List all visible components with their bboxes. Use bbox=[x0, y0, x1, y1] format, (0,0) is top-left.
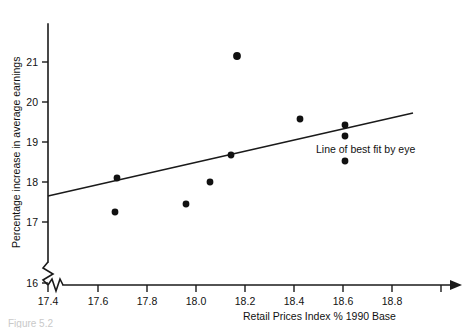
y-tick-label-19: 19 bbox=[26, 136, 38, 148]
data-point[interactable] bbox=[297, 116, 304, 123]
data-point[interactable] bbox=[112, 209, 119, 216]
figure-caption: Figure 5.2 bbox=[8, 318, 53, 328]
y-axis-break-icon bbox=[43, 262, 53, 285]
data-point[interactable] bbox=[183, 201, 190, 208]
x-tick-label-18-2: 18.2 bbox=[235, 295, 256, 307]
x-tick-label-17-4: 17.4 bbox=[38, 295, 59, 307]
data-point[interactable] bbox=[342, 133, 349, 140]
y-tick-marks bbox=[42, 62, 48, 283]
x-tick-label-17-6: 17.6 bbox=[88, 295, 109, 307]
x-axis-title: Retail Prices Index % 1990 Base bbox=[243, 310, 396, 322]
data-points-group bbox=[112, 52, 349, 215]
scatter-plot-figure: 21 20 19 18 17 16 17.4 17.6 17.8 18.0 18… bbox=[0, 0, 465, 328]
x-tick-marks bbox=[48, 285, 441, 292]
y-tick-label-18: 18 bbox=[26, 176, 38, 188]
data-point[interactable] bbox=[228, 152, 235, 159]
x-axis-break-icon bbox=[48, 279, 63, 291]
y-axis-title: Percentage increase in average earnings bbox=[10, 57, 22, 248]
chart-canvas: 21 20 19 18 17 16 17.4 17.6 17.8 18.0 18… bbox=[0, 0, 465, 328]
x-tick-label-18-4: 18.4 bbox=[284, 295, 305, 307]
fit-line-annotation: Line of best fit by eye bbox=[316, 143, 415, 155]
y-tick-label-21: 21 bbox=[26, 56, 38, 68]
data-point[interactable] bbox=[342, 122, 349, 129]
data-point[interactable] bbox=[342, 158, 349, 165]
x-tick-label-17-8: 17.8 bbox=[137, 295, 158, 307]
x-tick-label-18-0: 18.0 bbox=[186, 295, 207, 307]
x-tick-label-18-8: 18.8 bbox=[382, 295, 403, 307]
y-tick-label-20: 20 bbox=[26, 96, 38, 108]
y-tick-label-17: 17 bbox=[26, 216, 38, 228]
data-point[interactable] bbox=[114, 175, 121, 182]
x-tick-label-18-6: 18.6 bbox=[333, 295, 354, 307]
y-tick-label-origin: 16 bbox=[26, 277, 38, 289]
data-point[interactable] bbox=[207, 179, 214, 186]
x-axis-arrow-icon bbox=[450, 280, 462, 290]
data-point[interactable] bbox=[233, 52, 241, 60]
